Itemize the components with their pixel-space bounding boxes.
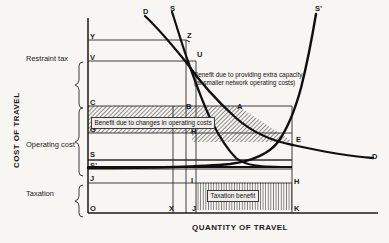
point-E: E <box>296 136 301 144</box>
y-point-C: C <box>90 99 96 107</box>
y-axis-title: COST OF TRAVEL <box>13 93 21 168</box>
y-point-Y: Y <box>90 33 95 41</box>
annotation-operating-cost-benefit: Benefit due to changes in operating cost… <box>91 117 215 129</box>
y-point-O: O <box>90 205 96 213</box>
annotation-capacity-benefit: Benefit due to providing extra capacity … <box>194 71 302 87</box>
economics-diagram: COST OF TRAVEL QUANTITY OF TRAVEL Restra… <box>0 0 389 243</box>
y-point-S-prime: S' <box>90 162 97 170</box>
annotation-taxation-benefit: Taxation benefit <box>207 190 259 202</box>
curve-label-D-top: D <box>143 8 149 16</box>
curve-supply-s-prime <box>88 14 316 168</box>
curve-label-D-right: D <box>372 153 378 161</box>
category-label-operating-cost: Operating cost <box>26 141 75 149</box>
point-U: U <box>197 51 203 59</box>
point-B: B <box>186 103 192 111</box>
annotation-capacity-benefit-line1: Benefit due to providing extra capacity <box>194 71 302 79</box>
point-I: I <box>191 177 193 185</box>
category-braces <box>75 62 83 217</box>
x-axis-title: QUANTITY OF TRAVEL <box>192 224 288 232</box>
point-Z: Z <box>187 32 192 40</box>
category-label-restraint-tax: Restraint tax <box>26 55 68 63</box>
x-point-J: J <box>192 205 196 213</box>
point-markers <box>186 40 190 42</box>
x-point-K: K <box>294 205 300 213</box>
y-point-S: S <box>90 151 95 159</box>
y-point-V: V <box>90 54 95 62</box>
point-A: A <box>237 103 243 111</box>
annotation-capacity-benefit-line2: (at smaller network operating costs) <box>194 79 302 87</box>
point-H-right: H <box>294 178 300 186</box>
category-label-taxation: Taxation <box>26 190 54 198</box>
x-point-X: X <box>169 205 174 213</box>
curve-label-S-prime-top: S' <box>315 5 322 13</box>
y-point-J: J <box>90 175 94 183</box>
curve-label-S-top: S <box>170 5 175 13</box>
